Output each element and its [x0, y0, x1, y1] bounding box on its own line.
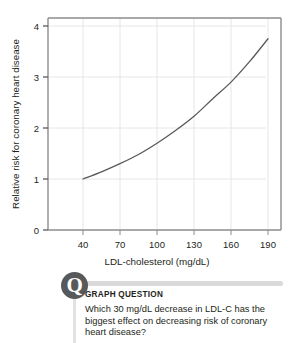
- y-tick-label: 1: [34, 174, 39, 185]
- y-tick-labels: 4 3 2 1 0: [34, 21, 39, 236]
- question-text: Which 30 mg/dL decrease in LDL-C has the…: [85, 304, 290, 339]
- y-tick-label: 2: [34, 123, 39, 134]
- question-mark-icon: Q: [61, 272, 88, 299]
- x-tick-marks: [83, 230, 268, 235]
- risk-curve-line: [83, 39, 268, 179]
- risk-curve-chart: 4 3 2 1 0 40 70 100 130 160 190 LDL-chol…: [0, 0, 300, 268]
- graph-figure: 4 3 2 1 0 40 70 100 130 160 190 LDL-chol…: [0, 0, 300, 268]
- y-axis-title: Relative risk for coronary heart disease: [10, 39, 21, 209]
- graph-question-callout: Q GRAPH QUESTION Which 30 mg/dL decrease…: [0, 268, 300, 343]
- y-tick-label: 0: [34, 225, 39, 236]
- x-tick-label: 40: [78, 239, 89, 250]
- vertical-gridlines: [83, 18, 268, 230]
- callout-rule: [75, 281, 283, 286]
- question-body: GRAPH QUESTION Which 30 mg/dL decrease i…: [85, 290, 290, 339]
- x-tick-label: 160: [223, 239, 239, 250]
- y-tick-label: 3: [34, 72, 39, 83]
- y-tick-label: 4: [34, 21, 39, 32]
- question-heading: GRAPH QUESTION: [85, 290, 290, 300]
- x-tick-label: 100: [149, 239, 165, 250]
- x-tick-label: 190: [260, 239, 276, 250]
- x-tick-label: 130: [186, 239, 202, 250]
- x-axis-title: LDL-cholesterol (mg/dL): [104, 256, 209, 267]
- x-tick-label: 70: [115, 239, 126, 250]
- x-tick-labels: 40 70 100 130 160 190: [78, 239, 276, 250]
- y-tick-marks: [43, 26, 48, 230]
